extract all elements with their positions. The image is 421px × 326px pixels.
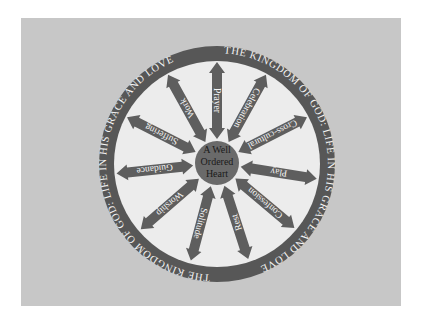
hub-line-1: A Well	[203, 144, 231, 155]
spoke-label: Prayer	[212, 88, 222, 114]
hub-line-3: Heart	[206, 168, 228, 179]
wheel-diagram: THE KINGDOM OF GOD: LIFE IN HIS GRACE AN…	[0, 0, 421, 326]
hub-line-2: Ordered	[201, 156, 234, 167]
